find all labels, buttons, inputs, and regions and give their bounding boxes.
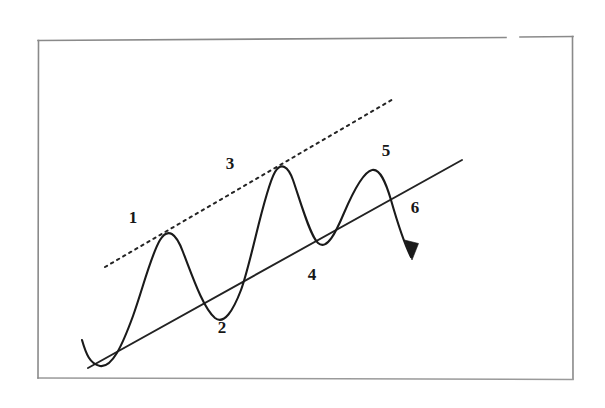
page-background: [0, 0, 605, 408]
border-left: [38, 41, 39, 379]
point-label-6: 6: [411, 198, 420, 217]
point-label-1: 1: [129, 208, 138, 227]
point-label-2: 2: [218, 318, 227, 337]
point-label-5: 5: [382, 141, 391, 160]
point-label-3: 3: [226, 154, 235, 173]
border-top-right-segment: [520, 37, 573, 38]
point-label-4: 4: [308, 265, 317, 284]
figure-canvas: 1 2 3 4 5 6: [0, 0, 605, 408]
border-right: [573, 37, 574, 380]
rising-wedge-diagram: 1 2 3 4 5 6: [0, 0, 605, 408]
